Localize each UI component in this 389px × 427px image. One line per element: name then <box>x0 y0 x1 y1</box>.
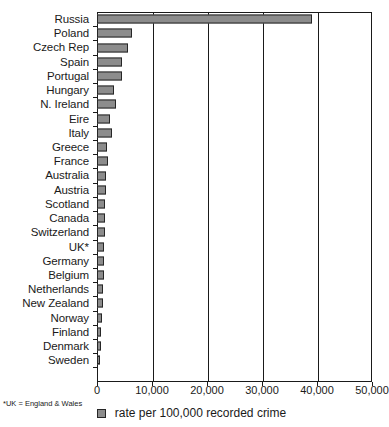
y-axis-label: Belgium <box>0 268 93 282</box>
legend-swatch-icon <box>97 409 106 418</box>
bar-row <box>97 26 372 40</box>
bar-row <box>97 339 372 353</box>
bar <box>97 228 105 237</box>
bar <box>97 114 110 123</box>
y-axis-label: Russia <box>0 12 93 26</box>
x-axis-label: 0 <box>94 384 100 396</box>
bar-row <box>97 97 372 111</box>
x-axis-label: 40,000 <box>300 384 334 396</box>
y-axis-label: Norway <box>0 311 93 325</box>
bar <box>97 185 106 194</box>
bar-row <box>97 325 372 339</box>
bar-row <box>97 197 372 211</box>
bar <box>97 171 106 180</box>
bar <box>97 143 107 152</box>
bar <box>97 71 122 80</box>
legend-label: rate per 100,000 recorded crime <box>115 406 286 420</box>
chart-title <box>0 0 383 4</box>
bar <box>97 43 128 52</box>
bar <box>97 313 102 322</box>
bar-row <box>97 112 372 126</box>
bar-row <box>97 140 372 154</box>
bar <box>97 199 105 208</box>
bar <box>97 299 103 308</box>
x-axis-label: 50,000 <box>355 384 389 396</box>
bar-row <box>97 40 372 54</box>
bar-rows <box>97 12 372 382</box>
bar-row <box>97 225 372 239</box>
y-axis-label: Portugal <box>0 69 93 83</box>
bar <box>97 342 101 351</box>
y-axis-label: Scotland <box>0 197 93 211</box>
legend: rate per 100,000 recorded crime <box>0 406 383 420</box>
bar <box>97 128 112 137</box>
y-axis-label: New Zealand <box>0 296 93 310</box>
y-axis-label: Czech Rep <box>0 40 93 54</box>
bar-row <box>97 183 372 197</box>
bar-row <box>97 211 372 225</box>
y-axis-label: Netherlands <box>0 282 93 296</box>
bar-row <box>97 154 372 168</box>
bar <box>97 256 104 265</box>
bar <box>97 285 103 294</box>
bar <box>97 214 105 223</box>
bar <box>97 29 132 38</box>
bar-row <box>97 311 372 325</box>
y-axis-labels: RussiaPolandCzech RepSpainPortugalHungar… <box>0 12 93 382</box>
bar <box>97 86 114 95</box>
bar-row <box>97 12 372 26</box>
y-axis-label: Australia <box>0 168 93 182</box>
bar <box>97 57 122 66</box>
bar <box>97 157 108 166</box>
y-axis-label: N. Ireland <box>0 97 93 111</box>
bar-row <box>97 254 372 268</box>
bar <box>97 100 116 109</box>
bar-row <box>97 268 372 282</box>
bar-row <box>97 168 372 182</box>
x-axis-label: 20,000 <box>190 384 224 396</box>
y-axis-label: Poland <box>0 26 93 40</box>
bar-row <box>97 240 372 254</box>
y-axis-label: Greece <box>0 140 93 154</box>
y-axis-label: France <box>0 154 93 168</box>
bar <box>97 271 104 280</box>
bar <box>97 15 312 24</box>
y-axis-label: UK* <box>0 240 93 254</box>
x-axis-label: 30,000 <box>245 384 279 396</box>
y-axis-label: Italy <box>0 126 93 140</box>
y-axis-label: Hungary <box>0 83 93 97</box>
bar-row <box>97 83 372 97</box>
y-axis-label: Spain <box>0 55 93 69</box>
x-axis-label: 10,000 <box>135 384 169 396</box>
y-axis-label: Denmark <box>0 339 93 353</box>
bar <box>97 242 104 251</box>
bar <box>97 327 101 336</box>
y-axis-tick <box>93 367 97 368</box>
y-axis-label: Canada <box>0 211 93 225</box>
y-axis-label: Sweden <box>0 353 93 367</box>
bar-row <box>97 282 372 296</box>
y-axis-label: Germany <box>0 254 93 268</box>
bar <box>97 356 100 365</box>
bar-row <box>97 353 372 367</box>
y-axis-label: Eire <box>0 112 93 126</box>
bar-row <box>97 126 372 140</box>
bar-row <box>97 55 372 69</box>
y-axis-label: Switzerland <box>0 225 93 239</box>
bar-row <box>97 69 372 83</box>
x-axis-labels: 010,00020,00030,00040,00050,000 <box>0 384 383 398</box>
y-axis-label: Austria <box>0 183 93 197</box>
bar-row <box>97 296 372 310</box>
y-axis-label: Finland <box>0 325 93 339</box>
